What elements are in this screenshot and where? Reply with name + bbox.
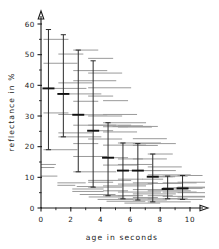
x-tick-label: 10 (185, 215, 195, 224)
y-axis-tick-labels: 0102030405060 (25, 20, 35, 213)
data-point-dashes (43, 39, 205, 202)
x-axis-title: age in seconds (86, 233, 158, 242)
y-tick-label: 30 (25, 112, 35, 121)
y-tick-label: 20 (25, 142, 35, 151)
x-tick-label: 8 (158, 215, 163, 224)
y-tick-label: 10 (25, 173, 35, 182)
y-tick-label: 40 (25, 81, 35, 90)
x-tick-label: 2 (68, 215, 73, 224)
x-tick-label: 6 (128, 215, 133, 224)
y-tick-label: 50 (25, 50, 35, 59)
x-tick-label: 4 (98, 215, 103, 224)
x-axis-tick-labels: 0246810 (38, 215, 195, 224)
y-tick-label: 0 (30, 204, 35, 213)
x-tick-label: 0 (38, 215, 43, 224)
y-axis-title: reflectance in % (7, 72, 16, 151)
y-tick-label: 60 (25, 20, 35, 29)
chart-figure: 0102030405060 0246810 age in seconds ref… (0, 0, 219, 249)
chart-plot-area: 0102030405060 0246810 age in seconds ref… (0, 0, 219, 249)
